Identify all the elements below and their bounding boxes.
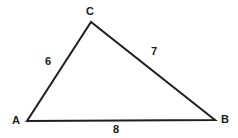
- side-length-label-cb: 7: [151, 46, 157, 57]
- triangle-shape: [0, 0, 238, 138]
- vertex-label-a: A: [12, 115, 20, 126]
- triangle-figure: C A B 6 7 8: [0, 0, 238, 138]
- side-length-label-ab: 8: [113, 124, 119, 135]
- side-length-label-ac: 6: [45, 56, 51, 67]
- triangle-polygon: [27, 22, 215, 121]
- vertex-label-b: B: [221, 114, 229, 125]
- vertex-label-c: C: [86, 6, 94, 17]
